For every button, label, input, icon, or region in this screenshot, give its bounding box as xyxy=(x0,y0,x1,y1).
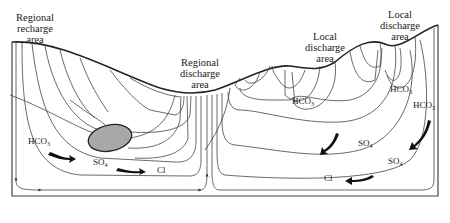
arrow-so4-to-cl-left xyxy=(116,168,146,175)
label-line: recharge xyxy=(2,23,68,34)
chem-so4-right-b: SO4 xyxy=(388,156,403,167)
chem-so4-left: SO4 xyxy=(93,157,108,168)
chem-base: HCO xyxy=(292,96,311,106)
label-line: area xyxy=(375,31,425,42)
chem-hco3-right-a: HCO3 xyxy=(390,84,412,95)
chem-hco3-left: HCO3 xyxy=(28,136,50,147)
chem-sub: 4 xyxy=(105,162,108,168)
chem-base: HCO xyxy=(28,136,47,146)
arrow-hco3-right-b xyxy=(409,120,431,150)
label-regional-discharge: Regional discharge area xyxy=(170,57,230,90)
chem-sub: 3 xyxy=(311,101,314,107)
label-line: Local xyxy=(375,9,425,20)
label-line: Regional xyxy=(170,57,230,68)
label-line: discharge xyxy=(300,42,350,53)
chem-sub: 4 xyxy=(370,143,373,149)
chem-base: SO xyxy=(358,138,370,148)
label-line: area xyxy=(300,53,350,64)
label-regional-recharge: Regional recharge area xyxy=(2,12,68,45)
label-line: discharge xyxy=(170,68,230,79)
label-local-discharge-1: Local discharge area xyxy=(300,31,350,64)
chem-base: Cl xyxy=(324,173,333,183)
chem-sub: 4 xyxy=(400,161,403,167)
chem-cl-left: Cl xyxy=(157,165,166,175)
label-line: Regional xyxy=(2,12,68,23)
chem-base: SO xyxy=(93,157,105,167)
chem-base: Cl xyxy=(157,165,166,175)
chem-base: HCO xyxy=(390,84,409,94)
chem-sub: 3 xyxy=(47,141,50,147)
arrow-hco3-right-a xyxy=(320,133,339,155)
chem-base: SO xyxy=(388,156,400,166)
label-line: area xyxy=(170,79,230,90)
chem-base: HCO xyxy=(413,100,432,110)
low-permeability-lens xyxy=(86,121,134,156)
chem-hco3-right-b: HCO3 xyxy=(413,100,435,111)
chem-hco3-mid: HCO3 xyxy=(292,96,314,107)
chem-so4-right-a: SO4 xyxy=(358,138,373,149)
chem-sub: 3 xyxy=(409,89,412,95)
label-line: Local xyxy=(300,31,350,42)
chem-cl-right: Cl xyxy=(324,173,333,183)
arrow-hco3-to-so4-left xyxy=(48,152,76,163)
label-local-discharge-2: Local discharge area xyxy=(375,9,425,42)
chem-sub: 3 xyxy=(432,105,435,111)
label-line: discharge xyxy=(375,20,425,31)
label-line: area xyxy=(2,34,68,45)
